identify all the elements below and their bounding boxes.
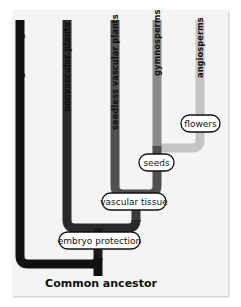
cladogram: green algae nonvascular plants seedless … (0, 0, 241, 307)
trait-label-vascular-tissue: vascular tissue (100, 197, 168, 207)
taxon-label-gymnosperms: gymnosperms (152, 10, 162, 76)
taxon-label-seedless-vascular: seedless vascular plants (110, 14, 120, 130)
trait-flowers: flowers (181, 115, 220, 132)
taxon-label-angiosperms: angiosperms (195, 17, 205, 78)
trait-label-embryo-protection: embryo protection (58, 236, 141, 246)
trait-seeds: seeds (139, 154, 174, 171)
trait-label-flowers: flowers (184, 119, 217, 129)
trait-label-seeds: seeds (143, 158, 169, 168)
taxon-label-nonvascular: nonvascular plants (62, 22, 72, 112)
trait-vascular-tissue: vascular tissue (100, 193, 168, 210)
taxon-label-green-algae: green algae (15, 21, 25, 78)
root-label: Common ancestor (45, 277, 157, 290)
trait-embryo-protection: embryo protection (58, 232, 141, 249)
